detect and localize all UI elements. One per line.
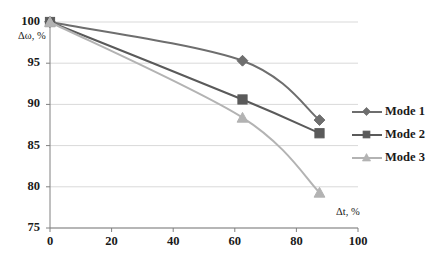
x-tick-label: 40 (156, 234, 190, 249)
series-layer (45, 17, 325, 198)
x-tick-label: 100 (341, 234, 375, 249)
x-tick-label: 80 (279, 234, 313, 249)
y-tick-label: 75 (10, 220, 40, 235)
chart-legend: Mode 1Mode 2Mode 3 (352, 100, 444, 169)
series-1 (45, 17, 325, 126)
gridlines (50, 22, 358, 228)
legend-swatch-diamond-icon (352, 105, 382, 119)
triangle-marker-icon (362, 153, 371, 162)
y-tick-label: 100 (10, 14, 40, 29)
data-point-marker (315, 129, 324, 138)
x-axis-title: Δt, % (336, 206, 360, 217)
y-tick-label: 80 (10, 179, 40, 194)
y-tick-label: 95 (10, 55, 40, 70)
y-tick-label: 90 (10, 96, 40, 111)
data-point-marker (362, 153, 370, 160)
legend-label: Mode 1 (385, 104, 425, 119)
legend-swatch-square-icon (352, 128, 382, 142)
data-point-marker (237, 55, 248, 66)
series-line (50, 22, 320, 133)
legend-item-1[interactable]: Mode 1 (352, 100, 444, 123)
legend-label: Mode 2 (385, 127, 425, 142)
y-tick-marks (46, 22, 50, 228)
legend-label: Mode 3 (385, 150, 425, 165)
data-point-marker (238, 95, 247, 104)
x-tick-label: 0 (33, 234, 67, 249)
x-tick-marks (50, 228, 358, 232)
diamond-marker-icon (362, 107, 371, 116)
data-point-marker (362, 107, 370, 115)
x-tick-label: 20 (95, 234, 129, 249)
series-line (50, 22, 320, 120)
y-tick-label: 85 (10, 138, 40, 153)
y-axis-title: Δω, % (18, 30, 46, 41)
axis-lines (50, 22, 358, 228)
x-tick-label: 60 (218, 234, 252, 249)
chart-container: 7580859095100 020406080100 Δω, % Δt, % M… (0, 0, 445, 262)
data-point-marker (237, 112, 248, 122)
legend-swatch-triangle-icon (352, 151, 382, 165)
series-3 (45, 17, 325, 197)
series-line (50, 22, 320, 193)
series-2 (45, 17, 324, 137)
legend-item-3[interactable]: Mode 3 (352, 146, 444, 169)
data-point-marker (363, 131, 370, 138)
legend-item-2[interactable]: Mode 2 (352, 123, 444, 146)
square-marker-icon (362, 130, 371, 139)
